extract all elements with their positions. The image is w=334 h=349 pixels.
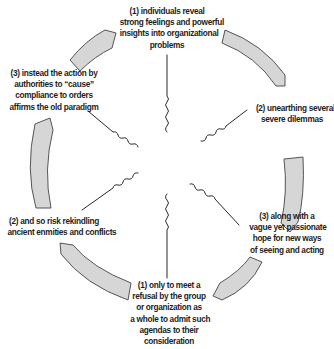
node-lower-left-label: (2) and so risk rekindling ancient enmit… [8, 215, 101, 237]
text-line: a whole to admit such [130, 313, 207, 324]
text-line: consideration [130, 335, 207, 346]
cycle-arrow-lower-right-to-bottom [213, 257, 262, 300]
text-line: (1) only to meet a [130, 279, 207, 290]
connector-lower-right [190, 184, 239, 225]
text-line: (3) along with a [249, 210, 325, 221]
text-line: of seeing and acting [249, 244, 325, 255]
cycle-arrow-lower-left-to-upper-left [30, 118, 53, 208]
cycle-arrow-top-to-upper-right [222, 30, 285, 86]
text-line: (3) instead the action by [9, 67, 98, 78]
node-upper-left-label: (3) instead the action by authorities to… [9, 67, 98, 112]
text-line: ancient enmities and conflicts [8, 226, 101, 237]
text-line: severe dilemmas [256, 113, 328, 124]
text-line: or organization as [130, 301, 207, 312]
connector-bottom [166, 194, 169, 278]
connector-upper-left [88, 111, 138, 147]
connector-upper-right [201, 110, 247, 141]
text-line: agendas to their [130, 324, 207, 335]
text-line: hope for new ways [249, 232, 325, 243]
node-upper-right-label: (2) unearthing several severe dilemmas [256, 102, 328, 124]
node-lower-right-label: (3) along with a vague yet passionate ho… [249, 210, 325, 255]
text-line: vague yet passionate [249, 221, 325, 232]
cycle-diagram: (1) individuals reveal strong feelings a… [0, 0, 334, 349]
connector-top [166, 55, 169, 132]
text-line: (1) individuals reveal [120, 5, 215, 16]
node-bottom-label: (1) only to meet a refusal by the group … [130, 279, 207, 346]
text-line: compliance to orders [9, 89, 98, 100]
text-line: (2) unearthing several [256, 102, 328, 113]
text-line: affirms the old paradigm [9, 101, 98, 112]
cycle-arrow-bottom-to-lower-left [60, 243, 131, 300]
node-top-label: (1) individuals reveal strong feelings a… [120, 5, 215, 50]
text-line: (2) and so risk rekindling [8, 215, 101, 226]
text-line: refusal by the group [130, 290, 207, 301]
connector-lower-left [82, 173, 138, 210]
cycle-arrow-upper-left-to-top [70, 30, 116, 71]
text-line: insights into organizational [120, 27, 215, 38]
text-line: strong feelings and powerful [120, 16, 215, 27]
text-line: authorities to “cause” [9, 78, 98, 89]
text-line: problems [120, 39, 215, 50]
